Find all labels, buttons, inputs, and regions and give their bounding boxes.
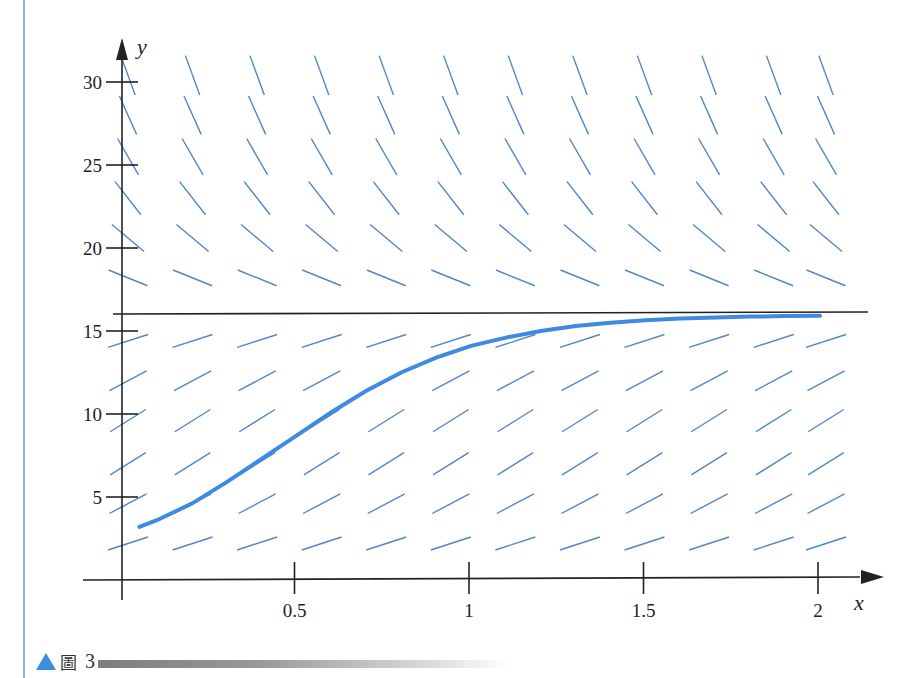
x-tick-label: 1.5 [632, 600, 656, 621]
x-axis-label: x [853, 590, 864, 615]
slope-segment [239, 494, 276, 514]
slope-segment [627, 453, 663, 475]
y-axis-ticks: 51015202530 [83, 72, 138, 508]
slope-segment [315, 56, 329, 95]
figure-number: 3 [85, 650, 95, 673]
slope-segment [573, 56, 587, 95]
slope-segment [696, 182, 722, 215]
slope-segment [118, 139, 139, 175]
x-axis-arrow-icon [861, 570, 884, 584]
slope-segment [303, 371, 340, 391]
y-tick-label: 10 [83, 404, 102, 425]
slope-segment [108, 334, 148, 347]
slope-segment [569, 139, 590, 175]
slope-segment [435, 225, 467, 252]
slope-segment [313, 96, 330, 134]
slope-segment [370, 225, 402, 252]
slope-segment [244, 182, 270, 215]
slope-segment [108, 537, 148, 550]
slope-segment [754, 537, 794, 550]
slope-segment [497, 494, 534, 514]
slope-segment [564, 225, 596, 252]
slope-segment [173, 334, 213, 347]
slope-segment [432, 494, 469, 514]
slope-segment [495, 537, 535, 550]
slope-segment [813, 182, 839, 215]
slope-segment [508, 56, 522, 95]
slope-segment [302, 537, 342, 550]
slope-segment [432, 371, 469, 391]
slope-segment [807, 494, 844, 514]
slope-segment [625, 334, 665, 347]
figure-caption: 圖 3 [36, 650, 508, 672]
slope-segment [109, 371, 146, 391]
slope-segment [699, 139, 720, 175]
y-axis-arrow-icon [116, 38, 128, 60]
slope-segment [810, 225, 842, 252]
slope-segment [302, 334, 342, 347]
slope-segment [689, 334, 729, 347]
slope-segment [754, 270, 793, 286]
slope-segment [755, 371, 792, 391]
slope-segment [174, 371, 211, 391]
slope-segment [806, 334, 846, 347]
slope-segment [702, 56, 716, 95]
slope-segment [440, 139, 461, 175]
figure-glyph: 圖 [60, 649, 77, 674]
slope-segment [808, 453, 844, 475]
slope-segment [634, 139, 655, 175]
slope-segment [378, 96, 395, 134]
solution-curve [139, 316, 820, 527]
slope-segment [691, 371, 728, 391]
slope-segment [691, 494, 728, 514]
slope-segment [807, 270, 846, 286]
slope-segment [306, 225, 338, 252]
slope-segment [373, 182, 399, 215]
slope-segment [690, 270, 729, 286]
slope-segment [241, 225, 273, 252]
slope-segment [175, 410, 211, 432]
x-axis-ticks: 0.511.52 [283, 562, 823, 621]
slope-segment [756, 410, 792, 432]
slope-segment [431, 537, 471, 550]
slope-segment [691, 453, 727, 475]
slope-segment [247, 139, 268, 175]
slope-segment [691, 410, 727, 432]
slope-segment [693, 225, 725, 252]
equilibrium-line [113, 312, 868, 314]
slope-segment [755, 494, 792, 514]
slope-segment [808, 410, 844, 432]
slope-segment [185, 56, 199, 95]
y-tick-label: 25 [83, 155, 102, 176]
slope-segment [763, 139, 784, 175]
slope-segment [626, 494, 663, 514]
slope-segment [379, 56, 393, 95]
x-axis [83, 577, 860, 580]
slope-segment [442, 96, 459, 134]
slope-segment [304, 453, 340, 475]
slope-segment [560, 537, 600, 550]
slope-segment [115, 182, 141, 215]
y-tick-label: 20 [83, 238, 102, 259]
slope-segment [625, 270, 664, 286]
slope-segment [433, 453, 469, 475]
slope-segment [560, 270, 599, 286]
slope-segment [689, 537, 729, 550]
slope-segment [366, 537, 406, 550]
slope-field-chart: 51015202530 0.511.52 y x [0, 0, 924, 678]
slope-segment [561, 371, 598, 391]
slope-segment [754, 334, 794, 347]
slope-segment [110, 410, 146, 432]
y-tick-label: 15 [83, 321, 102, 342]
slope-segment [502, 182, 528, 215]
slope-segment [498, 410, 534, 432]
slope-segment [302, 270, 341, 286]
slope-segment [571, 96, 588, 134]
slope-segment [121, 56, 135, 95]
slope-segment [816, 139, 837, 175]
slope-segment [806, 537, 846, 550]
slope-segment [239, 371, 276, 391]
triangle-icon [36, 653, 56, 670]
slope-segment [560, 334, 600, 347]
slope-segment [249, 96, 266, 134]
